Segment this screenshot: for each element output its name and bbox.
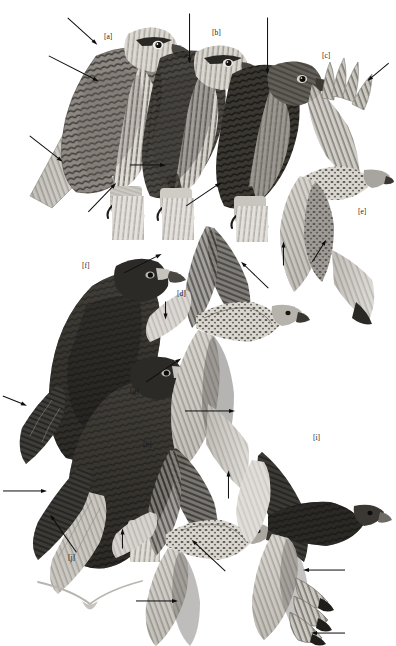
- arrow-head-icon: [160, 163, 166, 167]
- figure-label-f: [f]: [82, 262, 90, 270]
- arrow-head-icon: [155, 252, 162, 258]
- arrow-head-icon: [366, 76, 373, 83]
- arrow-head-icon: [311, 632, 317, 636]
- talon-a: [108, 186, 145, 240]
- arrow-head-icon: [229, 409, 235, 413]
- arrow-to-j-uppertail: [3, 487, 47, 494]
- arrow-head-icon: [266, 69, 270, 75]
- arrow-head-icon: [175, 356, 182, 363]
- arrow-shaft: [267, 18, 268, 70]
- arrow-head-icon: [215, 180, 222, 187]
- arrow-to-i-tail: [225, 471, 232, 499]
- arrow-head-icon: [172, 599, 178, 603]
- arrow-shaft: [130, 164, 161, 165]
- illustration-plate: [a][b][c][d][e][f][g][h][i][j]: [0, 0, 396, 646]
- arrow-shaft: [189, 14, 190, 59]
- arrow-head-icon: [226, 471, 230, 477]
- arrow-to-h-trailingedge: [136, 597, 178, 604]
- figure-label-i: [i]: [313, 434, 320, 442]
- arrow-shaft: [308, 570, 345, 571]
- arrow-to-i-primarytips: [311, 630, 345, 637]
- arrow-shaft: [3, 490, 42, 491]
- figure-i-flight-hawk: [236, 452, 392, 646]
- figure-label-h: [h]: [143, 441, 152, 449]
- figure-label-g: [g]: [130, 388, 139, 396]
- arrow-head-icon: [110, 181, 117, 188]
- arrow-head-icon: [303, 569, 309, 573]
- arrow-to-breastband-b: [187, 14, 194, 64]
- arrow-head-icon: [321, 238, 328, 245]
- figure-label-c: [c]: [322, 52, 330, 60]
- arrow-to-d-wingtip: [163, 302, 170, 320]
- arrow-to-i-secondaries: [303, 567, 345, 574]
- arrow-shaft: [136, 600, 173, 601]
- arrow-to-d-bellyband: [185, 407, 235, 414]
- arrow-shaft: [227, 476, 228, 499]
- arrow-shaft: [121, 534, 122, 549]
- arrow-head-icon: [120, 529, 124, 535]
- arrow-shaft: [185, 410, 230, 411]
- arrow-head-icon: [164, 314, 168, 320]
- talon-c: [232, 196, 269, 242]
- talon-b: [158, 188, 195, 240]
- arrow-shaft: [282, 247, 283, 266]
- figure-label-a: [a]: [104, 33, 112, 41]
- arrow-shaft: [316, 633, 345, 634]
- arrow-head-icon: [41, 489, 47, 493]
- figure-label-d: [d]: [177, 290, 186, 298]
- arrow-head-icon: [188, 58, 192, 64]
- figure-label-e: [e]: [358, 208, 366, 216]
- arrow-to-tarsus-b: [130, 161, 166, 168]
- figure-label-b: [b]: [212, 29, 221, 37]
- figure-label-j: [j]: [68, 554, 75, 562]
- arrow-to-underwing-e: [280, 242, 287, 266]
- arrow-head-icon: [281, 242, 285, 248]
- arrow-to-h-wrist: [119, 529, 126, 549]
- arrow-to-breast-c: [265, 18, 272, 75]
